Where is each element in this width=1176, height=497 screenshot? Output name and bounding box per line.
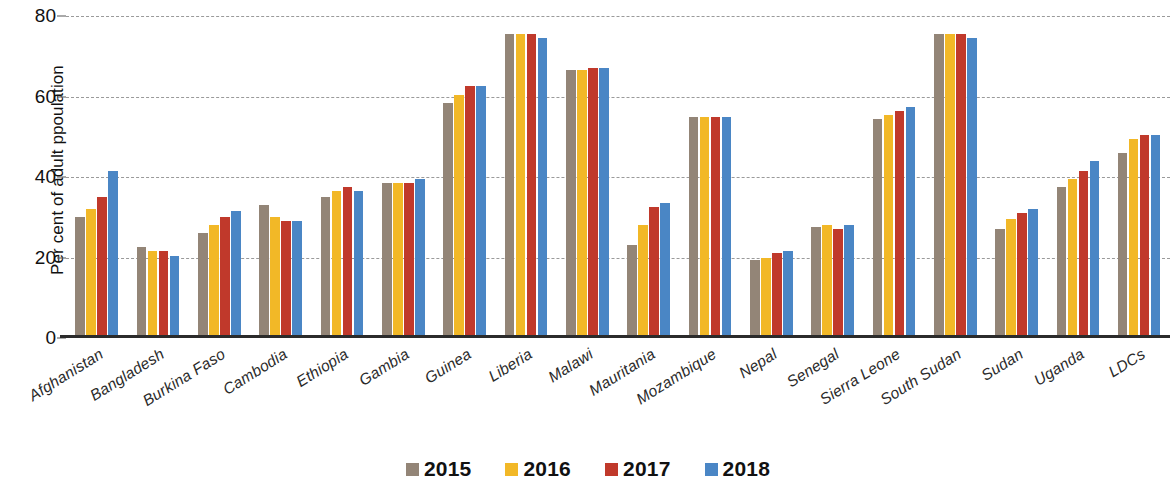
legend-item[interactable]: 2018 xyxy=(705,457,771,481)
bar-group xyxy=(618,16,679,338)
x-axis-labels: AfghanistanBangladeshBurkina FasoCambodi… xyxy=(66,341,1170,451)
bar xyxy=(1129,139,1139,338)
bar-group xyxy=(250,16,311,338)
bar xyxy=(220,217,230,338)
bar xyxy=(772,253,782,338)
legend-item[interactable]: 2017 xyxy=(605,457,671,481)
x-axis-line xyxy=(60,335,1170,338)
y-tick-label: 80 xyxy=(0,5,56,27)
bar xyxy=(281,221,291,338)
bar xyxy=(198,233,208,338)
x-label-cell: Gambia xyxy=(373,341,434,451)
bar xyxy=(844,225,854,338)
bar xyxy=(75,217,85,338)
bar xyxy=(231,211,241,338)
x-label-cell: Cambodia xyxy=(250,341,311,451)
bar xyxy=(354,191,364,338)
bar xyxy=(209,225,219,338)
bar xyxy=(577,70,587,338)
bar xyxy=(97,197,107,338)
bar-group xyxy=(434,16,495,338)
x-label-cell: Ethiopia xyxy=(311,341,372,451)
bar xyxy=(415,179,425,338)
legend-label: 2016 xyxy=(523,457,571,481)
bar xyxy=(711,117,721,338)
bar xyxy=(1151,135,1161,338)
bar xyxy=(811,227,821,338)
bar-group xyxy=(986,16,1047,338)
y-tick-mark xyxy=(57,257,66,258)
bar xyxy=(321,197,331,338)
bar-group xyxy=(679,16,740,338)
x-label-cell: Guinea xyxy=(434,341,495,451)
x-axis-label: LDCs xyxy=(1106,345,1149,381)
bar xyxy=(465,86,475,338)
bar xyxy=(159,251,169,338)
x-label-cell: Mozambique xyxy=(679,341,740,451)
bar xyxy=(649,207,659,338)
bar xyxy=(1068,179,1078,338)
bar xyxy=(956,34,966,338)
bar xyxy=(86,209,96,338)
bar xyxy=(761,258,771,339)
bar xyxy=(1118,153,1128,338)
y-tick-mark xyxy=(57,177,66,178)
bar xyxy=(689,117,699,338)
legend-label: 2017 xyxy=(623,457,671,481)
bar xyxy=(516,34,526,338)
legend-label: 2018 xyxy=(723,457,771,481)
bar xyxy=(750,260,760,338)
bar xyxy=(1090,161,1100,338)
bar xyxy=(934,34,944,338)
bar xyxy=(343,187,353,338)
legend-swatch-icon xyxy=(505,463,518,476)
y-tick-mark xyxy=(57,16,66,17)
plot-area: 020406080 xyxy=(66,16,1170,338)
bar xyxy=(538,38,548,338)
x-label-cell: Nepal xyxy=(741,341,802,451)
bar xyxy=(527,34,537,338)
bar-group xyxy=(741,16,802,338)
bar xyxy=(170,256,180,339)
bar xyxy=(292,221,302,338)
bar xyxy=(1006,219,1016,338)
bar xyxy=(660,203,670,338)
legend-item[interactable]: 2016 xyxy=(505,457,571,481)
bar xyxy=(722,117,732,338)
legend-swatch-icon xyxy=(605,463,618,476)
bar-group xyxy=(557,16,618,338)
bar xyxy=(627,245,637,338)
legend-item[interactable]: 2015 xyxy=(406,457,472,481)
x-axis-label: Sudan xyxy=(978,345,1026,385)
bar xyxy=(967,38,977,338)
chart-legend: 2015201620172018 xyxy=(0,457,1176,481)
bar xyxy=(137,247,147,338)
bar xyxy=(259,205,269,338)
bar-group xyxy=(66,16,127,338)
legend-swatch-icon xyxy=(705,463,718,476)
bar xyxy=(108,171,118,338)
bar xyxy=(822,225,832,338)
bar xyxy=(995,229,1005,338)
bar xyxy=(1017,213,1027,338)
x-label-cell: Sudan xyxy=(986,341,1047,451)
x-label-cell: Liberia xyxy=(495,341,556,451)
bar xyxy=(148,251,158,338)
bar-group xyxy=(495,16,556,338)
x-label-cell: Burkina Faso xyxy=(189,341,250,451)
bar xyxy=(1057,187,1067,338)
bar xyxy=(1028,209,1038,338)
y-tick-label: 0 xyxy=(0,327,56,349)
bar xyxy=(1079,171,1089,338)
bar xyxy=(945,34,955,338)
bar xyxy=(873,119,883,338)
bar-group xyxy=(311,16,372,338)
y-tick-label: 60 xyxy=(0,86,56,108)
bar-chart: Per cent of adult ppoulation 020406080 A… xyxy=(0,0,1176,497)
x-axis-label: Nepal xyxy=(736,345,781,382)
bar xyxy=(700,117,710,338)
bar xyxy=(906,107,916,338)
y-tick-label: 20 xyxy=(0,247,56,269)
bar-groups xyxy=(66,16,1170,338)
bar xyxy=(895,111,905,338)
